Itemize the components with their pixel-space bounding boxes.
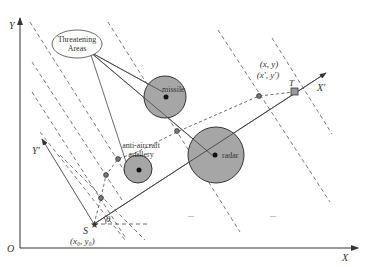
ellipsis-2: ... (270, 210, 276, 219)
target-label: T (289, 78, 295, 88)
label-radar: radar (222, 151, 239, 160)
ellipsis-1: ... (188, 210, 194, 219)
diagram-svg: ★ Threatening Areas missile anti-aircraf… (0, 0, 372, 267)
rotated-x-axis-label: X' (316, 82, 326, 93)
waypoint-coords-2: (x', y') (257, 70, 279, 80)
rotated-y-axis-label: Y' (32, 145, 41, 156)
label-artillery-2: artillery (128, 150, 153, 159)
callout-line1: Threatening (58, 35, 97, 44)
target-square-icon (291, 88, 298, 95)
y-axis-label: Y (9, 20, 16, 31)
label-missile: missile (162, 85, 185, 94)
angle-label: θ (106, 214, 111, 224)
start-coords: (x₀, y₀) (70, 236, 95, 246)
start-star-icon: ★ (90, 219, 99, 230)
diagram-canvas: ★ Threatening Areas missile anti-aircraf… (0, 0, 372, 267)
callout-line2: Areas (68, 44, 87, 53)
x-axis-label: X (341, 252, 349, 263)
label-artillery-1: anti-aircraft (122, 141, 161, 150)
origin-label: O (7, 243, 14, 254)
start-label: S (83, 225, 88, 236)
waypoint-coords-1: (x, y) (260, 59, 278, 69)
